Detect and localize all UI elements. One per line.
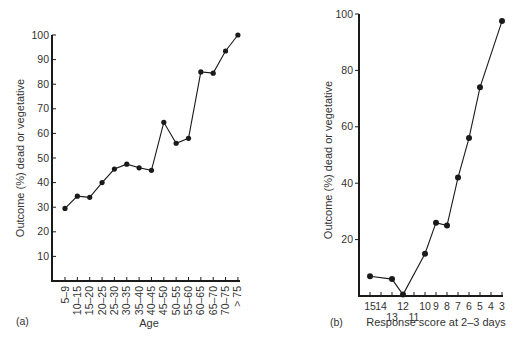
data-point — [149, 168, 154, 173]
x-axis-a: 5–910–1515–2020–2525–3030–3535–4040–4545… — [51, 277, 243, 315]
y-axis-b: 20406080100 — [335, 8, 359, 298]
x-tick-label: 45–50 — [157, 286, 169, 315]
data-point — [112, 166, 117, 171]
data-point — [455, 175, 461, 181]
x-tick-label: 50–55 — [170, 286, 182, 315]
x-axis-label-b: Response score at 2–3 days — [366, 316, 506, 328]
data-series-a — [62, 32, 240, 211]
x-tick-label: 15–20 — [83, 286, 95, 315]
y-axis-label-a: Outcome (%) dead or vegetative — [14, 79, 26, 237]
data-point — [99, 180, 104, 185]
x-tick-label: 10–15 — [71, 286, 83, 315]
data-point — [477, 84, 483, 90]
x-tick-label: 60–65 — [194, 286, 206, 315]
x-tick-label: 3 — [499, 300, 505, 312]
data-point — [161, 120, 166, 125]
y-tick-label: 90 — [37, 53, 49, 65]
data-point — [400, 292, 406, 298]
x-tick-label: 4 — [488, 300, 494, 312]
x-tick-label: 7 — [455, 300, 461, 312]
y-tick-label: 70 — [37, 102, 49, 114]
figure: 102030405060708090100 5–910–1515–2020–25… — [0, 0, 517, 342]
data-point — [422, 251, 428, 257]
x-tick-label: 30–35 — [120, 286, 132, 315]
y-tick-label: 80 — [341, 64, 353, 76]
data-point — [223, 48, 228, 53]
data-point — [235, 32, 240, 37]
data-point — [186, 136, 191, 141]
x-tick-label: 10 — [419, 300, 431, 312]
y-tick-label: 40 — [341, 177, 353, 189]
data-point — [75, 194, 80, 199]
x-tick-label: 20–25 — [96, 286, 108, 315]
y-tick-label: 30 — [37, 201, 49, 213]
data-point — [389, 276, 395, 282]
y-tick-label: 100 — [335, 8, 353, 20]
data-point — [466, 135, 472, 141]
y-tick-label: 20 — [341, 233, 353, 245]
panel-label-a: (a) — [16, 315, 29, 327]
data-point — [87, 195, 92, 200]
data-point — [124, 162, 129, 167]
x-tick-label: 5 — [477, 300, 483, 312]
y-tick-label: 10 — [37, 250, 49, 262]
data-point — [198, 69, 203, 74]
x-tick-label: 40–45 — [145, 286, 157, 315]
x-tick-label: 9 — [433, 300, 439, 312]
x-tick-label: 35–40 — [133, 286, 145, 315]
data-point — [499, 18, 505, 24]
y-tick-label: 80 — [37, 78, 49, 90]
y-tick-label: 60 — [37, 127, 49, 139]
x-tick-label: 12 — [397, 300, 409, 312]
x-tick-label: > 75 — [231, 286, 243, 307]
y-tick-label: 100 — [31, 29, 49, 41]
y-tick-label: 40 — [37, 176, 49, 188]
chart-panel-b: 20406080100 1514131211109876543 Outcome … — [322, 8, 506, 329]
data-point — [444, 223, 450, 229]
y-tick-label: 20 — [37, 225, 49, 237]
x-axis-label-a: Age — [139, 317, 159, 329]
y-tick-label: 60 — [341, 120, 353, 132]
y-axis-label-b: Outcome (%) dead or vegetative — [322, 81, 334, 239]
x-tick-label: 5–9 — [59, 286, 71, 304]
y-tick-label: 50 — [37, 152, 49, 164]
y-axis-a: 102030405060708090100 — [31, 29, 56, 283]
data-point — [433, 220, 439, 226]
data-point — [174, 141, 179, 146]
x-tick-label: 65–70 — [207, 286, 219, 315]
x-tick-label: 55–60 — [182, 286, 194, 315]
chart-panel-a: 102030405060708090100 5–910–1515–2020–25… — [14, 29, 243, 330]
panel-label-b: (b) — [330, 316, 343, 328]
data-point — [211, 71, 216, 76]
data-point — [137, 165, 142, 170]
x-tick-label: 70–75 — [219, 286, 231, 315]
x-tick-label: 6 — [466, 300, 472, 312]
data-point — [367, 273, 373, 279]
x-tick-label: 25–30 — [108, 286, 120, 315]
data-series-b — [367, 18, 505, 298]
data-point — [62, 206, 67, 211]
x-tick-label: 8 — [444, 300, 450, 312]
